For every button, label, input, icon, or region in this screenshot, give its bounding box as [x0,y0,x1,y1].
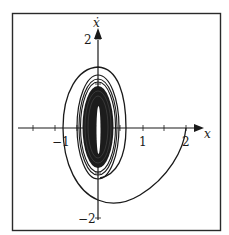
x-axis-label: x [204,127,211,141]
y-tick-label-2: 2 [84,33,92,47]
x-tick-label-neg1: −1 [52,135,70,149]
trajectory-initial-arc [63,67,186,203]
trajectory [63,67,186,203]
phase-portrait-figure: x ẋ −1 1 2 2 −2 [0,0,229,235]
focus-center [97,106,101,154]
x-tick-label-1: 1 [139,135,147,149]
x-axis-arrow-icon [194,124,204,132]
y-axis-label: ẋ [93,16,100,30]
y-tick-label-neg2: −2 [78,212,96,226]
